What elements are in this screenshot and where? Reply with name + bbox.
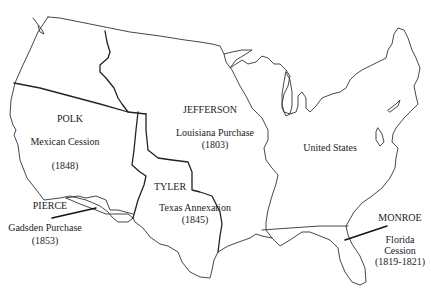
united-states-label: United States: [290, 142, 370, 154]
jefferson-label: JEFFERSON: [155, 104, 265, 116]
louisiana-west-boundary: [100, 31, 128, 112]
tyler-label: TYLER: [140, 181, 200, 193]
gadsden-purchase-year: (1853): [5, 235, 85, 247]
florida-cession-year: (1819-1821): [366, 256, 431, 268]
polk-label: POLK: [40, 113, 100, 125]
mexican-cession-year: (1848): [30, 160, 100, 172]
monroe-label: MONROE: [370, 212, 430, 224]
louisiana-purchase-label: Louisiana Purchase: [160, 127, 270, 139]
texas-annexation-year: (1845): [145, 214, 245, 226]
mexican-cession-label: Mexican Cession: [30, 136, 100, 148]
pierce-label: PIERCE: [20, 200, 80, 212]
texas-annexation-label: Texas Annexation: [145, 202, 245, 214]
gadsden-purchase-label: Gadsden Purchase: [5, 222, 85, 234]
florida-north-boundary: [262, 226, 348, 230]
louisiana-purchase-year: (1803): [160, 139, 270, 151]
texas-panhandle-west: [132, 112, 146, 218]
